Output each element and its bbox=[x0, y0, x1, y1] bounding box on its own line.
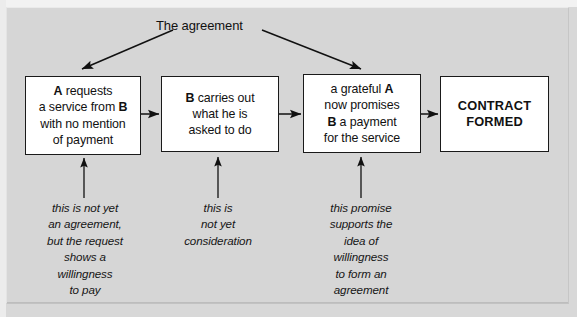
caption-request: this is not yet an agreement, but the re… bbox=[23, 200, 148, 299]
node-performance-text: B carries outwhat he isasked to do bbox=[182, 90, 259, 138]
node-performance[interactable]: B carries outwhat he isasked to do bbox=[161, 76, 279, 152]
node-contract[interactable]: CONTRACTFORMED bbox=[440, 76, 549, 152]
page-top-margin bbox=[0, 0, 577, 7]
caption-performance: this is not yet consideration bbox=[156, 200, 281, 249]
node-request-text: A requestsa service from Bwith no mentio… bbox=[35, 83, 132, 148]
title-label: The agreement bbox=[156, 18, 243, 33]
node-request[interactable]: A requestsa service from Bwith no mentio… bbox=[25, 76, 141, 155]
diagram-canvas: The agreement bbox=[0, 0, 577, 317]
node-promise[interactable]: a grateful Anow promisesB a paymentfor t… bbox=[303, 74, 421, 153]
node-promise-text: a grateful Anow promisesB a paymentfor t… bbox=[320, 81, 404, 146]
caption-promise: this promise supports the idea of willin… bbox=[299, 200, 424, 299]
node-contract-text: CONTRACTFORMED bbox=[454, 98, 535, 131]
